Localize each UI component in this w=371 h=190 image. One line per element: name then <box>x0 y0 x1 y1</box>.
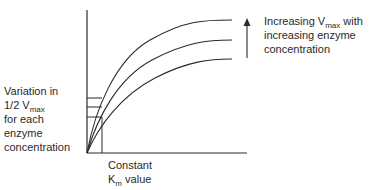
annotation-subscript: m <box>115 179 122 188</box>
annotation-text: concentration <box>264 42 371 56</box>
km-annotation: Constant Km value <box>108 158 188 186</box>
annotation-text: enzyme <box>4 126 86 140</box>
annotation-text: with <box>340 15 363 27</box>
half-vmax-annotation: Variation in 1/2 Vmax for each enzyme co… <box>4 84 86 154</box>
curve-mid-enzyme <box>87 40 232 153</box>
annotation-text: Increasing V <box>264 15 325 27</box>
arrow-up-icon <box>244 18 251 26</box>
annotation-text: concentration <box>4 140 86 154</box>
curve-high-enzyme <box>87 20 232 153</box>
annotation-text: Variation in <box>4 84 86 98</box>
curve-low-enzyme <box>87 59 232 153</box>
annotation-text: Constant <box>108 158 188 172</box>
vmax-increase-annotation: Increasing Vmax with increasing enzyme c… <box>264 14 371 56</box>
annotation-text: increasing enzyme <box>264 28 371 42</box>
annotation-text: for each <box>4 112 86 126</box>
annotation-text: 1/2 V <box>4 99 30 111</box>
annotation-text: value <box>122 173 151 185</box>
